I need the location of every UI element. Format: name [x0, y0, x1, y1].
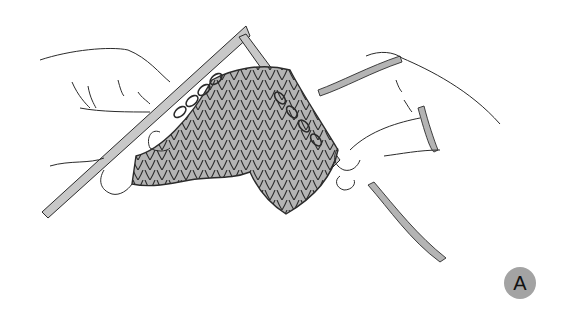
step-label: A — [513, 273, 526, 293]
step-badge: A — [504, 267, 536, 299]
knitting-figure: A — [0, 0, 561, 321]
knitting-illustration — [0, 0, 561, 321]
knitted-fabric — [132, 67, 338, 214]
